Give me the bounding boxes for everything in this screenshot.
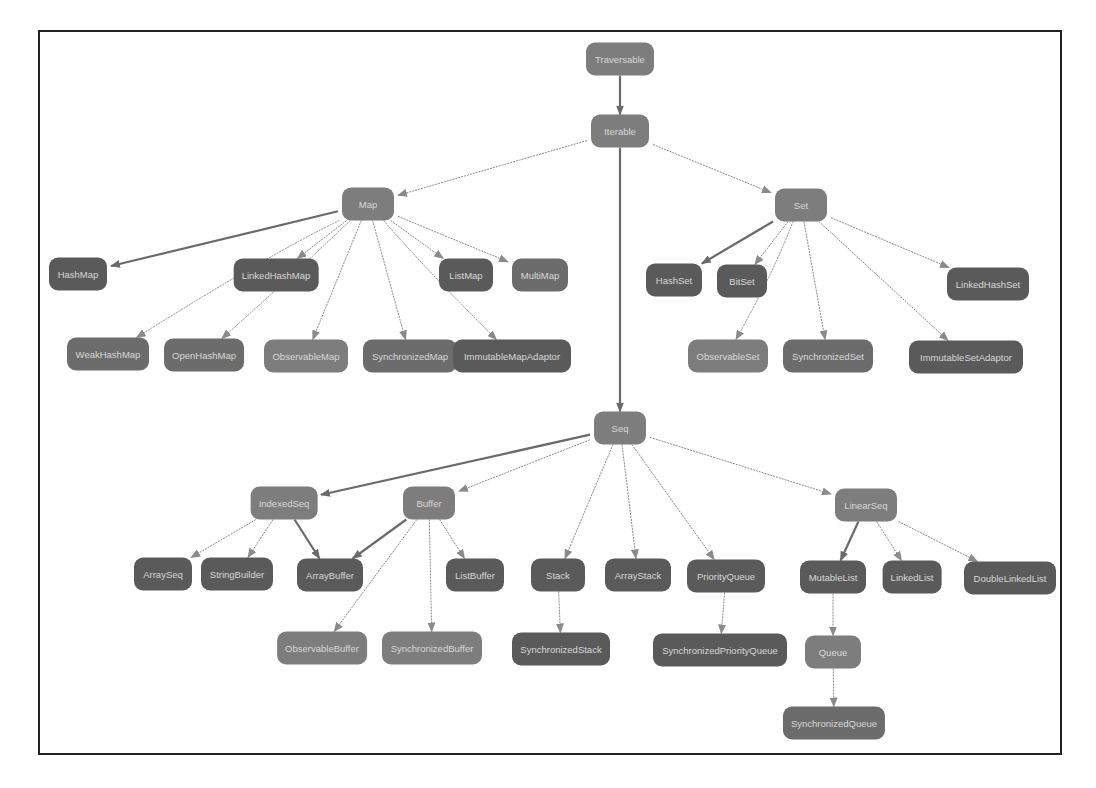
node-observablemap: ObservableMap (264, 340, 348, 373)
node-listbuffer: ListBuffer (446, 559, 504, 592)
edge-seq-to-indexedseq (321, 435, 590, 495)
edge-set-to-bitset (755, 222, 788, 265)
node-iterable: Iterable (591, 115, 649, 148)
node-priorityqueue: PriorityQueue (687, 560, 765, 593)
node-label: Queue (819, 647, 848, 658)
node-seq: Seq (594, 412, 646, 445)
node-linearseq: LinearSeq (835, 489, 897, 522)
node-traversable: Traversable (586, 43, 654, 76)
node-synchronizedbuffer: SynchronizedBuffer (382, 632, 482, 665)
node-arrayseq: ArraySeq (134, 558, 192, 591)
node-label: Seq (612, 423, 629, 434)
node-label: ListBuffer (455, 570, 495, 581)
node-label: ArrayBuffer (306, 570, 354, 581)
edge-set-to-synchronizedset (804, 222, 825, 340)
node-mutablelist: MutableList (800, 561, 866, 594)
node-label: Map (359, 199, 377, 210)
node-doublelinkedlist: DoubleLinkedList (964, 562, 1056, 595)
node-label: WeakHashMap (76, 349, 141, 360)
node-label: ObservableSet (697, 351, 760, 362)
edge-buffer-to-listbuffer (440, 520, 465, 559)
node-label: LinkedHashSet (956, 279, 1020, 290)
node-queue: Queue (805, 636, 861, 669)
node-label: PriorityQueue (697, 571, 755, 582)
edge-seq-to-priorityqueue (632, 445, 714, 560)
node-arraystack: ArrayStack (605, 559, 671, 592)
edge-iterable-to-set (653, 144, 771, 192)
edge-priorityqueue-to-synchronizedpriorityqueue (721, 593, 724, 634)
node-buffer: Buffer (403, 487, 455, 520)
node-label: SynchronizedStack (520, 644, 601, 655)
node-label: Iterable (604, 126, 636, 137)
node-synchronizedmap: SynchronizedMap (363, 340, 457, 373)
node-synchronizedpriorityqueue: SynchronizedPriorityQueue (653, 634, 787, 667)
node-hashmap: HashMap (49, 258, 107, 291)
edge-seq-to-stack (565, 445, 613, 559)
node-weakhashmap: WeakHashMap (67, 338, 149, 371)
node-label: StringBuilder (210, 569, 264, 580)
node-immutablemapadaptor: ImmutableMapAdaptor (453, 340, 571, 373)
node-label: MultiMap (521, 270, 560, 281)
node-listmap: ListMap (439, 259, 493, 292)
edge-layer (0, 0, 1096, 788)
node-observablebuffer: ObservableBuffer (277, 632, 367, 665)
node-linkedhashmap: LinkedHashMap (234, 259, 319, 292)
node-label: Traversable (595, 54, 645, 65)
edge-indexedseq-to-stringbuilder (248, 520, 273, 558)
node-label: SynchronizedPriorityQueue (662, 645, 778, 656)
node-linkedhashset: LinkedHashSet (947, 268, 1029, 301)
edge-linearseq-to-linkedlist (877, 522, 902, 561)
node-indexedseq: IndexedSeq (251, 487, 318, 520)
node-immutablesetadaptor: ImmutableSetAdaptor (909, 341, 1023, 374)
node-label: LinkedHashMap (242, 270, 311, 281)
node-label: HashSet (656, 275, 692, 286)
edge-map-to-linkedhashmap (297, 221, 346, 259)
node-synchronizedset: SynchronizedSet (783, 340, 873, 373)
node-label: SynchronizedMap (372, 351, 448, 362)
node-label: ImmutableSetAdaptor (920, 352, 1012, 363)
edge-map-to-observablemap (313, 221, 362, 340)
node-label: Buffer (416, 498, 441, 509)
node-label: ListMap (449, 270, 482, 281)
edge-set-to-immutablesetadaptor (819, 222, 948, 341)
node-label: ImmutableMapAdaptor (464, 351, 560, 362)
node-label: ArrayStack (615, 570, 661, 581)
edge-indexedseq-to-arraybuffer (295, 520, 320, 559)
node-label: ObservableBuffer (285, 643, 359, 654)
node-label: LinkedList (891, 572, 934, 583)
edge-map-to-synchronizedmap (373, 221, 406, 340)
node-set: Set (775, 189, 827, 222)
node-multimap: MultiMap (512, 259, 568, 292)
node-label: Stack (546, 570, 570, 581)
node-label: BitSet (729, 276, 754, 287)
node-label: OpenHashMap (172, 350, 236, 361)
edge-seq-to-linearseq (650, 437, 831, 494)
node-label: LinearSeq (844, 500, 887, 511)
node-stack: Stack (531, 559, 585, 592)
node-label: IndexedSeq (259, 498, 310, 509)
edge-queue-to-synchronizedqueue (833, 669, 834, 707)
node-openhashmap: OpenHashMap (164, 339, 244, 372)
edge-seq-to-arraystack (622, 445, 636, 559)
node-label: SynchronizedBuffer (391, 643, 474, 654)
edge-buffer-to-synchronizedbuffer (429, 520, 431, 632)
edge-linearseq-to-doublelinkedlist (899, 522, 978, 562)
edge-set-to-linkedhashset (831, 218, 949, 268)
node-observableset: ObservableSet (688, 340, 768, 373)
node-bitset: BitSet (717, 265, 767, 298)
node-linkedlist: LinkedList (883, 561, 942, 594)
node-label: ObservableMap (272, 351, 339, 362)
edge-indexedseq-to-arrayseq (191, 520, 256, 558)
node-label: HashMap (58, 269, 99, 280)
node-hashset: HashSet (646, 264, 702, 297)
edge-buffer-to-arraybuffer (353, 520, 407, 559)
node-arraybuffer: ArrayBuffer (297, 559, 363, 592)
node-label: SynchronizedSet (792, 351, 864, 362)
edge-iterable-to-map (398, 141, 587, 196)
node-label: SynchronizedQueue (791, 718, 877, 729)
node-stringbuilder: StringBuilder (201, 558, 273, 591)
node-synchronizedqueue: SynchronizedQueue (783, 707, 885, 740)
node-map: Map (342, 188, 394, 221)
node-label: DoubleLinkedList (974, 573, 1047, 584)
edge-stack-to-synchronizedstack (559, 592, 561, 633)
